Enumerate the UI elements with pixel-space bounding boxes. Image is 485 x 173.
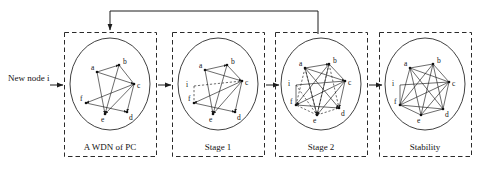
node-c-label: c [137, 81, 141, 90]
node-i-label: i [288, 79, 290, 88]
node-e-label: e [417, 116, 421, 125]
node-c-dot [241, 80, 244, 83]
feedback-loop-arrow [110, 11, 318, 34]
node-d-label: d [445, 110, 449, 119]
panel-wdn: a b c d e f A WDN of PC [65, 33, 157, 157]
panel-stage1-edges [194, 65, 242, 114]
panel-stage2-edges [296, 64, 345, 115]
node-b-label: b [333, 56, 337, 65]
node-f-dot [85, 102, 88, 105]
node-b-dot [328, 63, 331, 66]
panel-stage2-nodes: a b c d e f i [288, 56, 352, 125]
node-d-dot [234, 111, 237, 114]
node-f-label: f [80, 94, 83, 103]
node-i-label: i [392, 79, 394, 88]
panel-wdn-caption: A WDN of PC [84, 142, 137, 152]
node-d-label: d [341, 109, 345, 118]
node-a-dot [204, 69, 207, 72]
panel-stability-caption: Stability [410, 142, 441, 152]
panel-wdn-nodes: a b c d e f [80, 57, 141, 124]
node-i-label: i [186, 80, 188, 89]
node-c-label: c [245, 78, 249, 87]
node-d-dot [126, 111, 129, 114]
node-c-label: c [452, 79, 456, 88]
node-e-label: e [313, 116, 317, 125]
node-e-label: e [101, 115, 105, 124]
node-b-dot [432, 63, 435, 66]
panel-stage2-caption: Stage 2 [308, 142, 335, 152]
node-f-dot [295, 104, 298, 107]
panel-stage2: a b c d e f i Stage 2 [276, 33, 368, 157]
panel-stage1: a b c d e f i Stage 1 [173, 33, 265, 157]
node-a-label: a [404, 59, 408, 68]
node-a-dot [304, 67, 307, 70]
node-a-dot [409, 67, 412, 70]
node-a-dot [96, 71, 99, 74]
panel-stability-nodes: a b c d e f i [392, 56, 456, 125]
node-b-dot [118, 64, 121, 67]
node-d-label: d [129, 113, 133, 122]
node-a-label: a [91, 63, 95, 72]
diagram-canvas: New node i [0, 0, 485, 173]
node-a-label: a [299, 59, 303, 68]
node-d-dot [338, 107, 341, 110]
node-c-dot [448, 81, 451, 84]
node-f-label: f [188, 94, 191, 103]
node-c-label: c [348, 78, 352, 87]
node-b-dot [226, 64, 229, 67]
node-f-label: f [394, 97, 397, 106]
node-b-label: b [231, 57, 235, 66]
node-f-label: f [290, 97, 293, 106]
panel-wdn-edges [86, 65, 134, 114]
node-f-dot [399, 104, 402, 107]
node-f-dot [193, 102, 196, 105]
panel-stability: a b c d e f i Stability [380, 33, 472, 157]
node-c-dot [344, 80, 347, 83]
node-c-dot [133, 83, 136, 86]
node-e-label: e [209, 115, 213, 124]
network-evolution-diagram: New node i [0, 0, 485, 173]
panel-stage1-caption: Stage 1 [205, 142, 232, 152]
entry-label-new-node: New node i [8, 73, 50, 83]
node-b-label: b [437, 56, 441, 65]
node-d-label: d [237, 113, 241, 122]
node-a-label: a [199, 61, 203, 70]
panel-stability-edges [400, 64, 449, 115]
node-d-dot [442, 108, 445, 111]
node-b-label: b [123, 57, 127, 66]
